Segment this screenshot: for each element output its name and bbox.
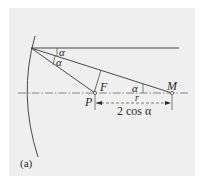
label-f: F [99,80,108,94]
panel-label: (a) [20,157,33,170]
dimension-label-r: r [135,92,139,103]
dimension-label-2cos: 2 cos α [117,104,152,118]
label-m: M [166,79,178,93]
angle-label-lower: α [56,56,62,68]
label-p: P [84,95,93,109]
mirror-arc [27,36,38,157]
concave-mirror-diagram: α α α F P M r 2 cos α (a) [0,0,203,184]
arrow-right-icon [165,101,171,105]
point-p [93,91,96,94]
arrow-left-icon [96,101,102,105]
